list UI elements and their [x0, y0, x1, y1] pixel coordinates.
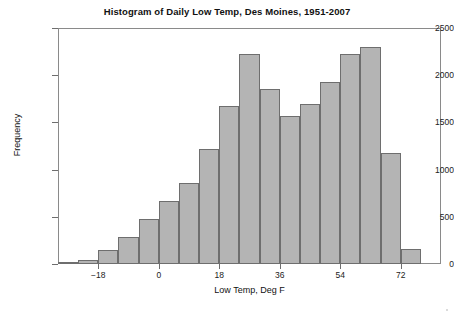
histogram-figure: Histogram of Daily Low Temp, Des Moines,…	[0, 0, 454, 315]
y-tick-label: 1000	[412, 165, 454, 175]
page-speck	[446, 309, 448, 311]
histogram-bar	[320, 82, 340, 264]
histogram-bar	[219, 106, 239, 264]
histogram-bar	[159, 201, 179, 264]
x-tick-label: 36	[263, 270, 297, 280]
x-tick-mark	[340, 264, 341, 269]
y-tick-mark	[52, 170, 58, 171]
x-tick-label: 18	[202, 270, 236, 280]
histogram-bar	[260, 89, 280, 264]
x-tick-mark	[159, 264, 160, 269]
y-tick-label: 0	[412, 259, 454, 269]
x-tick-label: −18	[81, 270, 115, 280]
histogram-bar	[381, 153, 401, 264]
x-tick-label: 54	[323, 270, 357, 280]
histogram-bar	[98, 250, 118, 264]
y-tick-mark	[52, 264, 58, 265]
histogram-bar	[300, 104, 320, 264]
x-axis-title: Low Temp, Deg F	[58, 285, 441, 295]
histogram-bar	[139, 219, 159, 264]
y-tick-mark	[52, 217, 58, 218]
y-tick-label: 500	[412, 212, 454, 222]
x-tick-mark	[98, 264, 99, 269]
y-tick-label: 2500	[412, 23, 454, 33]
histogram-bar	[340, 54, 360, 264]
y-axis-title: Frequency	[12, 75, 22, 195]
chart-title: Histogram of Daily Low Temp, Des Moines,…	[0, 6, 454, 17]
histogram-bar	[58, 262, 78, 264]
y-tick-mark	[52, 28, 58, 29]
y-tick-mark	[52, 122, 58, 123]
x-tick-mark	[401, 264, 402, 269]
y-tick-label: 1500	[412, 117, 454, 127]
histogram-bar	[280, 116, 300, 264]
y-tick-mark	[52, 75, 58, 76]
x-tick-label: 72	[384, 270, 418, 280]
histogram-bars	[58, 28, 441, 264]
histogram-bar	[179, 183, 199, 264]
histogram-bar	[78, 260, 98, 264]
histogram-bar	[118, 237, 138, 264]
y-tick-label: 2000	[412, 70, 454, 80]
histogram-bar	[360, 47, 380, 264]
histogram-bar	[199, 149, 219, 264]
x-tick-mark	[219, 264, 220, 269]
x-tick-mark	[280, 264, 281, 269]
histogram-bar	[239, 54, 259, 264]
x-tick-label: 0	[142, 270, 176, 280]
